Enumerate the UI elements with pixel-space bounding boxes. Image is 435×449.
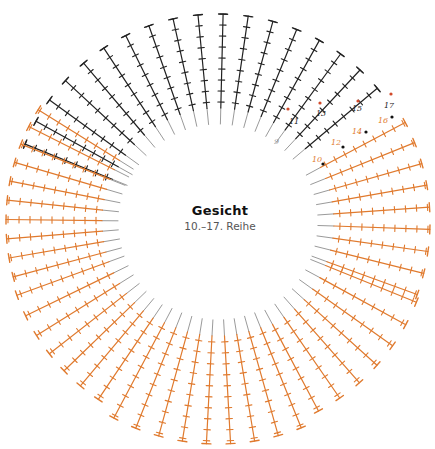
chart-subtitle: 10.–17. Reihe xyxy=(170,219,270,233)
row-number: 9 xyxy=(274,137,279,146)
row-number-labels: 11131517910121416 xyxy=(274,101,395,164)
row-start-dot xyxy=(318,101,321,104)
row-number: 13 xyxy=(316,109,326,118)
row-start-dot xyxy=(321,162,324,165)
row-start-dot xyxy=(390,115,393,118)
row-start-dot xyxy=(364,130,367,133)
row-number: 14 xyxy=(352,127,362,136)
chart-center-label: Gesicht 10.–17. Reihe xyxy=(170,203,270,233)
row-start-markers xyxy=(286,92,393,165)
row-start-dot xyxy=(356,99,359,102)
row-number: 16 xyxy=(378,116,388,125)
row-number: 17 xyxy=(384,101,395,110)
row-number: 11 xyxy=(289,117,299,126)
row-start-dot xyxy=(341,145,344,148)
row-number: 15 xyxy=(352,104,362,113)
row-number: 12 xyxy=(331,138,341,147)
row-start-dot xyxy=(389,92,392,95)
chart-title: Gesicht xyxy=(170,203,270,219)
row-number: 10 xyxy=(312,155,322,164)
row-start-dot xyxy=(286,107,289,110)
